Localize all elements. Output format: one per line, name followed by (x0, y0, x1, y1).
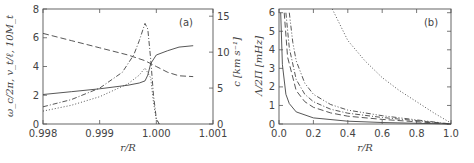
panel-b-ylabel: Λ/2Π [mHz] (253, 36, 264, 97)
x-tick-label: 0.2 (305, 128, 321, 139)
x-tick-label: 1.001 (199, 128, 228, 139)
y-tick-label: 4 (33, 61, 39, 72)
y-tick-label: 8 (33, 4, 39, 15)
y-tick-label: 2 (269, 81, 275, 92)
panel-a-xlabel: r/R (120, 142, 136, 153)
series-dotted (43, 68, 159, 124)
y-tick-label: 1 (269, 100, 275, 111)
y-tick-label: 3 (269, 63, 275, 74)
x-tick-label: 0.8 (409, 128, 425, 139)
x-tick-label: 0.4 (340, 128, 356, 139)
series-dash-dot (286, 13, 451, 124)
x-tick-label: 0.6 (374, 128, 390, 139)
x-tick-label: 1.0 (443, 128, 459, 139)
x-tick-label: 0.0 (271, 128, 287, 139)
y-right-tick-label: 0 (217, 119, 223, 130)
x-tick-label: 0.998 (29, 128, 58, 139)
panel-b-label: (b) (424, 17, 438, 28)
series-dashed (43, 33, 193, 76)
y-right-tick-label: 5 (217, 83, 223, 94)
y-tick-label: 6 (33, 32, 39, 43)
series-solid (43, 46, 193, 95)
y-tick-label: 5 (269, 26, 275, 37)
panel-a-ylabel-right: c [km s⁻¹] (231, 37, 242, 87)
y-tick-label: 0 (269, 119, 275, 130)
x-tick-label: 1.000 (142, 128, 171, 139)
panel-a-ticks: 0.9980.9991.0001.00102468051015 (29, 4, 230, 140)
panel-b: 0.00.20.40.60.81.00123456 (b) r/R Λ/2Π [… (253, 7, 459, 153)
panel-a: 0.9980.9991.0001.00102468051015 (a) r/R … (4, 4, 242, 154)
y-tick-label: 0 (33, 119, 39, 130)
figure: 0.9980.9991.0001.00102468051015 (a) r/R … (0, 0, 474, 163)
y-tick-label: 2 (33, 90, 39, 101)
panel-a-label: (a) (179, 17, 193, 28)
panel-a-curves (43, 23, 193, 124)
panel-b-xlabel: r/R (357, 142, 373, 153)
series-dash-dot (43, 23, 159, 124)
y-tick-label: 6 (269, 7, 275, 18)
panel-a-ylabel-left: ω_c/2π, v_t/ℓ, 10M_t (4, 14, 16, 117)
y-right-tick-label: 15 (217, 11, 230, 22)
y-tick-label: 4 (269, 44, 275, 55)
x-tick-label: 0.999 (85, 128, 114, 139)
y-right-tick-label: 10 (217, 47, 230, 58)
